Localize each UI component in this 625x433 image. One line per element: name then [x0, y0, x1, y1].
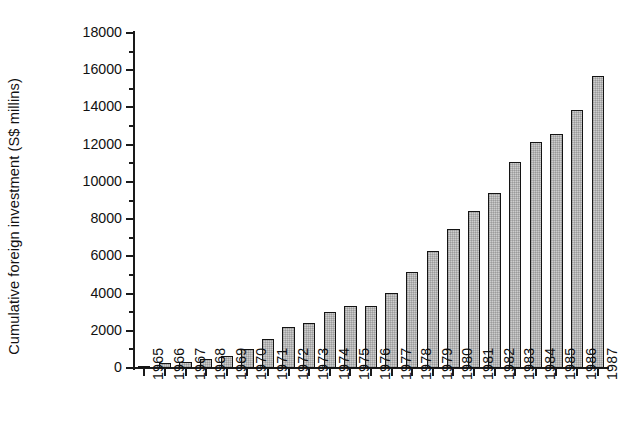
y-tick-major [126, 144, 134, 146]
y-tick-label: 4000 [50, 285, 122, 301]
x-tick-label: 1979 [439, 348, 455, 380]
bar [138, 366, 150, 369]
x-tick-label: 1973 [315, 348, 331, 380]
y-tick-label: 16000 [50, 61, 122, 77]
plot-area [134, 33, 608, 368]
y-tick-label: 12000 [50, 136, 122, 152]
y-tick-major [126, 330, 134, 332]
bar [488, 193, 500, 368]
y-tick-major [126, 32, 134, 34]
bar [530, 142, 542, 368]
x-tick-label: 1982 [501, 348, 517, 380]
x-tick-label: 1985 [562, 348, 578, 380]
y-tick-label: 14000 [50, 98, 122, 114]
bar [509, 162, 521, 368]
bar [468, 211, 480, 368]
x-tick-label: 1984 [542, 348, 558, 380]
bar [550, 134, 562, 369]
x-tick-label: 1969 [233, 348, 249, 380]
y-tick-major [126, 255, 134, 257]
y-tick-major [126, 218, 134, 220]
y-tick-label: 8000 [50, 210, 122, 226]
x-tick-label: 1972 [295, 348, 311, 380]
x-tick-label: 1965 [150, 348, 166, 380]
x-tick-label: 1966 [171, 348, 187, 380]
x-tick-label: 1981 [480, 348, 496, 380]
bar [592, 76, 604, 368]
y-axis-title: Cumulative foreign investment (S$ millin… [0, 0, 28, 433]
y-tick-major [126, 69, 134, 71]
x-tick-label: 1976 [377, 348, 393, 380]
x-tick-label: 1970 [253, 348, 269, 380]
x-tick-label: 1978 [418, 348, 434, 380]
y-tick-major [126, 367, 134, 369]
x-tick-label: 1968 [212, 348, 228, 380]
y-tick-label: 6000 [50, 247, 122, 263]
bar-chart-figure: Cumulative foreign investment (S$ millin… [0, 0, 625, 433]
y-tick-major [126, 293, 134, 295]
x-tick [143, 369, 145, 376]
y-tick-label: 2000 [50, 322, 122, 338]
y-tick-label: 18000 [50, 24, 122, 40]
x-tick-label: 1986 [583, 348, 599, 380]
y-tick-label: 10000 [50, 173, 122, 189]
x-tick-label: 1983 [521, 348, 537, 380]
x-tick-label: 1974 [336, 348, 352, 380]
x-tick-label: 1975 [356, 348, 372, 380]
x-tick-label: 1980 [459, 348, 475, 380]
y-tick-major [126, 181, 134, 183]
x-tick-label: 1987 [604, 348, 620, 380]
x-tick-label: 1977 [398, 348, 414, 380]
bar [571, 110, 583, 368]
x-tick-label: 1967 [192, 348, 208, 380]
x-tick-label: 1971 [274, 348, 290, 380]
y-tick-label: 0 [50, 359, 122, 375]
y-tick-major [126, 106, 134, 108]
